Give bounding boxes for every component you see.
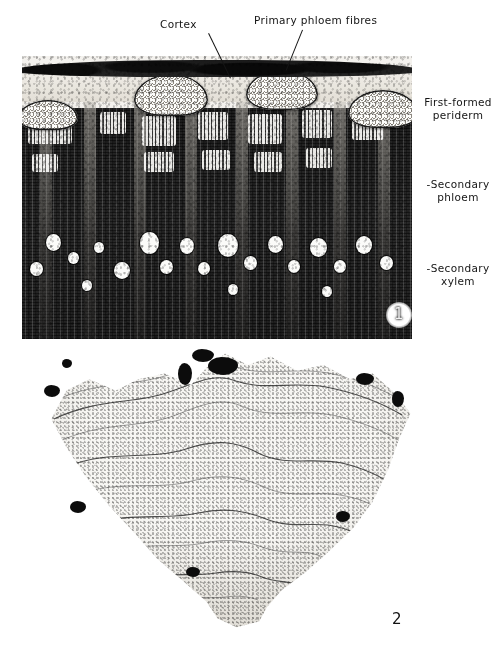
label-secondary-xylem: -Secondary xylem — [418, 262, 498, 287]
bark-fleck — [70, 501, 86, 513]
figure-2-micrograph — [40, 345, 418, 630]
figure-1-number: 1 — [394, 305, 404, 323]
film-grain-overlay — [22, 56, 412, 339]
label-secondary-phloem-line2: phloem — [437, 191, 478, 203]
label-primary-phloem-fibres: Primary phloem fibres — [254, 14, 377, 27]
label-first-formed-periderm: First-formed periderm — [418, 96, 498, 121]
label-first-formed-periderm-line1: First-formed — [424, 96, 492, 108]
figure-2-number: 2 — [392, 610, 402, 628]
label-secondary-phloem-line1: -Secondary — [427, 178, 490, 190]
label-first-formed-periderm-line2: periderm — [433, 109, 484, 121]
label-secondary-xylem-line2: xylem — [441, 275, 475, 287]
figure-1-micrograph — [22, 56, 412, 339]
label-secondary-phloem: -Secondary phloem — [418, 178, 498, 203]
growth-increment-lines — [40, 345, 418, 630]
bark-fleck — [44, 385, 60, 397]
organ-cross-section-body — [40, 345, 418, 630]
label-secondary-xylem-line1: -Secondary — [427, 262, 490, 274]
bark-fleck — [62, 359, 72, 368]
label-cortex: Cortex — [160, 18, 197, 31]
figure-plate: 1 Cortex Primary phloem fibres First-for… — [0, 0, 501, 658]
bark-fleck — [178, 363, 192, 385]
